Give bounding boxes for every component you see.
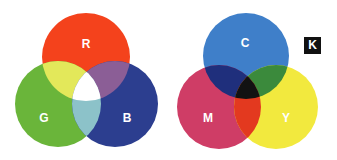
label-m: M bbox=[203, 112, 213, 124]
label-b: B bbox=[123, 112, 132, 124]
color-model-diagrams bbox=[0, 0, 337, 160]
label-r: R bbox=[82, 38, 91, 50]
label-c: C bbox=[241, 37, 250, 49]
rgb-venn bbox=[15, 13, 158, 147]
label-g: G bbox=[39, 112, 48, 124]
key-black-box: K bbox=[304, 37, 321, 54]
label-y: Y bbox=[282, 112, 290, 124]
cmy-venn bbox=[177, 13, 318, 149]
